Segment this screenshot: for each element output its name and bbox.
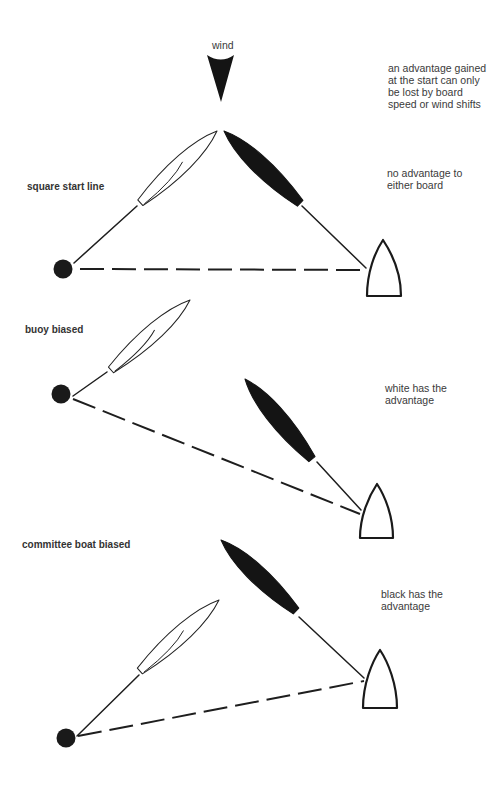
scenario-note-line: black has the (381, 588, 443, 600)
committee-boat-icon (363, 650, 397, 708)
buoy-icon (57, 729, 76, 748)
black-board-icon (218, 125, 306, 210)
start-line (80, 269, 365, 270)
general-note: an advantage gained at the start can onl… (388, 62, 486, 110)
scenario-note-line: white has the (384, 382, 447, 394)
black-board-icon (215, 533, 302, 617)
black-board-layline (317, 462, 361, 510)
wind-arrow-icon (207, 55, 234, 102)
general-note-line: speed or wind shifts (388, 98, 481, 110)
start-line (78, 681, 364, 736)
committee-boat-icon (360, 484, 393, 538)
black-board-layline (299, 617, 364, 678)
scenario-square-start-line: square start line no advantage to either… (27, 125, 462, 296)
black-board-icon (238, 373, 319, 465)
scenario-label: square start line (27, 181, 105, 192)
buoy-icon (52, 385, 71, 404)
scenario-label: buoy biased (25, 324, 83, 335)
white-board-icon (134, 594, 225, 678)
scenario-note-line: no advantage to (387, 167, 462, 179)
black-board-layline (302, 206, 366, 268)
wind-label: wind (211, 39, 234, 51)
white-board-layline (74, 206, 137, 263)
scenario-buoy-biased: buoy biased white has the advantage (25, 294, 447, 538)
start-line-bias-diagram: wind an advantage gained at the start ca… (0, 0, 491, 794)
white-board-icon (105, 294, 195, 377)
general-note-line: be lost by board (388, 86, 463, 98)
general-note-line: an advantage gained (388, 62, 486, 74)
white-board-layline (73, 372, 107, 396)
start-line (73, 399, 360, 514)
buoy-icon (54, 260, 73, 279)
general-note-line: at the start can only (388, 74, 480, 86)
scenario-label: committee boat biased (22, 539, 130, 550)
scenario-note-line: advantage (381, 600, 430, 612)
committee-boat-icon (367, 240, 401, 296)
wind-indicator: wind (207, 39, 234, 102)
scenario-note-line: either board (387, 179, 443, 191)
white-board-icon (135, 125, 223, 209)
scenario-committee-boat-biased: committee boat biased black has the adva… (22, 533, 443, 747)
scenario-note-line: advantage (385, 394, 434, 406)
